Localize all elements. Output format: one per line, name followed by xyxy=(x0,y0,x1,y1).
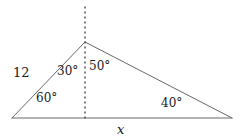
triangle-right-side xyxy=(85,42,232,118)
label-angle-60: 60° xyxy=(36,92,57,104)
label-angle-50: 50° xyxy=(89,60,110,72)
triangle-diagram-svg xyxy=(0,0,240,140)
label-side-x: x xyxy=(117,123,124,136)
label-angle-40: 40° xyxy=(161,97,182,109)
label-angle-30: 30° xyxy=(57,65,78,77)
geometry-figure: 12 30° 50° 60° 40° x xyxy=(0,0,240,140)
label-side-length-12: 12 xyxy=(13,66,30,79)
triangle-left-side xyxy=(12,42,85,118)
